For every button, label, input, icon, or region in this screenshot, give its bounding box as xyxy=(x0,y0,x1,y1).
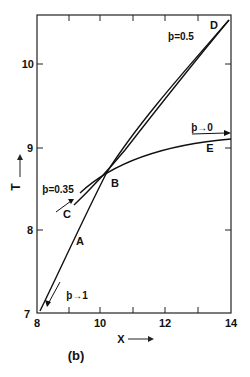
p0-arrow-icon xyxy=(192,133,226,134)
p0-arrowhead-icon xyxy=(224,130,231,136)
y-tick-label: 9 xyxy=(27,142,33,154)
label-p-0: þ→0 xyxy=(191,122,213,133)
label-b: B xyxy=(111,177,119,189)
label-p-1: þ→1 xyxy=(66,290,88,301)
panel-label: (b) xyxy=(68,348,85,363)
x-tick-label: 8 xyxy=(34,317,40,329)
label-p-05: þ=0.5 xyxy=(168,31,194,42)
x-tick-label: 12 xyxy=(159,317,171,329)
x-tick-label: 10 xyxy=(94,317,106,329)
curve-c-to-d xyxy=(74,20,229,205)
p1-arrow-icon xyxy=(48,282,60,304)
y-axis-arrowhead-icon xyxy=(17,154,23,160)
label-c: C xyxy=(63,208,71,220)
x-tick-label: 14 xyxy=(225,317,238,329)
y-tick-label: 7 xyxy=(24,308,30,320)
x-axis-arrowhead-icon xyxy=(148,336,154,342)
x-axis-title: X xyxy=(117,333,125,345)
y-tick-label: 10 xyxy=(22,58,34,70)
y-axis-title: T xyxy=(9,183,23,191)
x-ticks xyxy=(69,15,198,313)
label-e: E xyxy=(206,142,213,154)
p035-arrowhead-icon xyxy=(68,199,74,204)
label-d: D xyxy=(210,19,218,31)
label-a: A xyxy=(76,235,84,247)
label-p-035: þ=0.35 xyxy=(42,184,74,195)
phase-chart: 8 10 12 14 7 8 9 10 X T (b) A B C D E þ=… xyxy=(0,0,250,377)
plot-frame xyxy=(37,15,231,313)
y-tick-label: 8 xyxy=(27,224,33,236)
